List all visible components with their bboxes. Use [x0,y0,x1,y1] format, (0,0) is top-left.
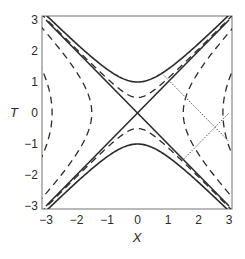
y-tick-label: 1 [31,75,38,89]
curve-dotted [162,73,229,141]
y-tick-label: 3 [31,13,38,27]
x-tick-label: 3 [226,213,233,227]
y-tick-label: 0 [31,106,38,120]
curve-dashed [40,13,235,98]
y-tick-label: −3 [24,199,38,213]
x-axis-label: X [132,230,143,245]
x-tick-label: 0 [134,213,141,227]
x-axis-ticks: −3−2−10123 [39,213,233,227]
x-tick-label: 1 [165,213,172,227]
x-tick-label: −2 [70,213,84,227]
y-axis-label: T [10,105,19,120]
y-tick-label: 2 [31,44,38,58]
x-tick-label: 2 [195,213,202,227]
curve-dashed [183,14,245,212]
curve-solid [40,9,235,82]
curve-dashed [30,14,92,212]
x-tick-label: −3 [39,213,53,227]
y-tick-label: −2 [24,168,38,182]
curve-solid [40,144,235,217]
curve-dotted [183,113,229,160]
curve-dashed [223,14,245,212]
y-axis-ticks: −3−2−10123 [24,13,38,213]
plot-curves [8,9,245,217]
curve-dashed [40,129,235,214]
spacetime-hyperbola-chart: −3−2−10123 −3−2−10123 X T [0,0,245,259]
x-tick-label: −1 [100,213,114,227]
y-tick-label: −1 [24,137,38,151]
